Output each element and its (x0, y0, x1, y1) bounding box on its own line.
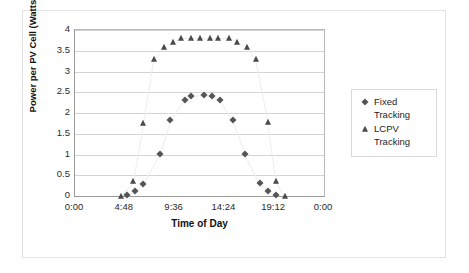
data-point-triangle (151, 56, 157, 62)
data-point-triangle (215, 35, 221, 41)
data-point-triangle (140, 120, 146, 126)
data-point-triangle (178, 35, 184, 41)
data-point-diamond (167, 117, 174, 124)
y-tick-label: 3 (26, 66, 70, 76)
data-point-triangle (161, 43, 167, 49)
gridline (75, 113, 324, 114)
x-tick-label: 19:12 (261, 201, 285, 212)
x-tick-label: 4:48 (115, 201, 134, 212)
triangle-marker-icon (356, 123, 374, 135)
data-point-triangle (118, 192, 124, 198)
y-tick-label: 1.5 (26, 128, 70, 138)
gridline (75, 155, 324, 156)
series-trendline (267, 122, 276, 181)
x-tick-label: 14:24 (212, 201, 236, 212)
data-point-triangle (130, 178, 136, 184)
y-tick-label: 0 (26, 190, 70, 200)
y-tick-label: 3.5 (26, 45, 70, 55)
data-point-triangle (234, 38, 240, 44)
data-point-triangle (265, 119, 271, 125)
data-point-triangle (188, 35, 194, 41)
legend-item[interactable]: Fixed Tracking (356, 96, 432, 121)
series-trendline (244, 154, 259, 183)
y-axis-ticks: 00.511.522.533.54 (26, 29, 70, 197)
gridline (75, 175, 324, 176)
series-trendline (170, 100, 185, 121)
diamond-marker-icon (356, 96, 374, 108)
data-point-triangle (170, 39, 176, 45)
x-tick-label: 9:36 (164, 201, 183, 212)
data-point-triangle (282, 192, 288, 198)
legend-label: LCPV Tracking (374, 123, 432, 148)
data-point-triangle (273, 177, 279, 183)
chart-legend: Fixed TrackingLCPV Tracking (351, 89, 437, 157)
data-point-diamond (140, 180, 147, 187)
gridline (75, 134, 324, 135)
x-axis-ticks: 0:004:489:3614:2419:120:00 (74, 201, 325, 215)
gridline (75, 92, 324, 93)
gridline (75, 72, 324, 73)
gridline (75, 51, 324, 52)
x-tick-label: 0:00 (65, 201, 84, 212)
gridline (75, 30, 324, 31)
x-axis-title: Time of Day (74, 218, 325, 229)
data-point-diamond (229, 117, 236, 124)
y-tick-label: 4 (26, 24, 70, 34)
series-trendline (133, 123, 144, 182)
data-point-triangle (207, 35, 213, 41)
x-tick-label: 0:00 (314, 201, 333, 212)
data-point-triangle (253, 56, 259, 62)
y-tick-label: 2 (26, 107, 70, 117)
data-point-triangle (226, 35, 232, 41)
data-point-triangle (244, 43, 250, 49)
series-trendline (232, 120, 245, 154)
y-tick-label: 1 (26, 149, 70, 159)
data-point-diamond (242, 151, 249, 158)
data-point-diamond (217, 97, 224, 104)
chart-figure: Power per PV Cell (Watts) 00.511.522.533… (0, 0, 469, 273)
series-trendline (160, 120, 171, 154)
data-point-triangle (197, 35, 203, 41)
series-trendline (143, 154, 160, 184)
y-tick-label: 2.5 (26, 86, 70, 96)
legend-label: Fixed Tracking (374, 96, 410, 121)
y-tick-label: 0.5 (26, 169, 70, 179)
legend-item[interactable]: LCPV Tracking (356, 123, 432, 148)
plot-area (74, 29, 325, 197)
